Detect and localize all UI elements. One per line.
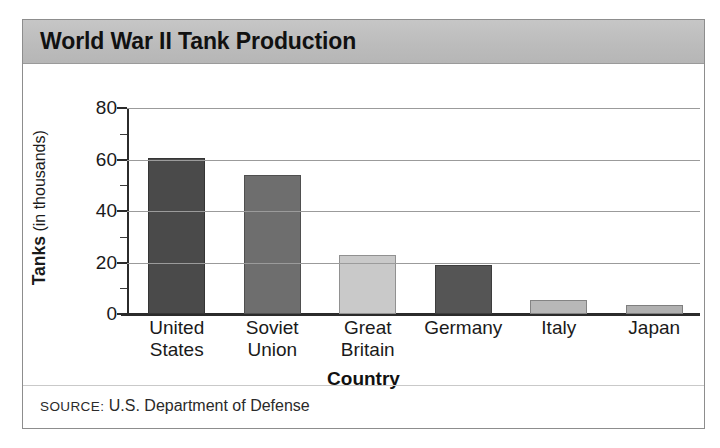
y-tick-label: 20 [96,252,117,274]
source-divider [23,385,704,386]
x-tick-label: Italy [541,317,576,339]
plot-region: Tanks (in thousands) 020406080 United St… [23,65,704,428]
bar [244,175,301,314]
y-tick-label: 0 [106,303,117,325]
chart-title: World War II Tank Production [40,27,356,54]
plot-area [127,108,700,314]
x-axis-title: Country [23,368,704,390]
bar [626,305,683,314]
y-axis-title-strong: Tanks [29,236,49,285]
gridline [127,160,700,161]
y-tick-minor [120,134,127,135]
x-tick-label: Japan [628,317,680,339]
source-keyword: SOURCE: [40,399,104,414]
y-tick-minor [120,288,127,289]
y-tick-minor [120,237,127,238]
source-text: U.S. Department of Defense [109,397,310,414]
y-tick-major [117,159,127,161]
chart-title-band: World War II Tank Production [23,20,704,64]
y-tick-label: 80 [96,97,117,119]
bar [339,255,396,314]
y-tick-major [117,262,127,264]
bar [435,265,492,314]
x-tick-label: Great Britain [341,317,395,362]
chart-figure: World War II Tank Production Tanks (in t… [22,19,705,429]
x-tick-label: Germany [424,317,502,339]
x-tick-label: Soviet Union [246,317,299,362]
x-tick-label: United States [149,317,204,362]
y-axis-title: Tanks (in thousands) [27,103,53,313]
y-tick-label: 60 [96,149,117,171]
y-tick-major [117,313,127,315]
y-tick-minor [120,185,127,186]
x-axis-tick-labels: United StatesSoviet UnionGreat BritainGe… [129,317,700,369]
y-tick-major [117,210,127,212]
gridline [127,108,700,109]
gridline [127,263,700,264]
gridline [127,211,700,212]
y-tick-label: 40 [96,200,117,222]
bar [148,158,205,314]
y-tick-major [117,107,127,109]
bar [530,300,587,314]
y-axis-title-light: (in thousands) [31,130,48,236]
source-note: SOURCE: U.S. Department of Defense [40,397,310,415]
